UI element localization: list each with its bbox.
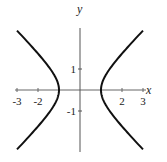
y-axis-label: y <box>76 2 83 16</box>
x-tick-label: -3 <box>12 95 22 107</box>
axes: -3-223 1-1 x y <box>12 2 152 152</box>
x-axis-label: x <box>145 83 152 97</box>
x-tick-label: -2 <box>33 95 42 107</box>
x-ticks: -3-223 <box>12 88 146 107</box>
y-tick-label: 1 <box>71 63 77 75</box>
x-tick-label: 2 <box>119 95 125 107</box>
y-tick-label: -1 <box>67 105 76 117</box>
hyperbola-plot: -3-223 1-1 x y <box>0 0 167 162</box>
